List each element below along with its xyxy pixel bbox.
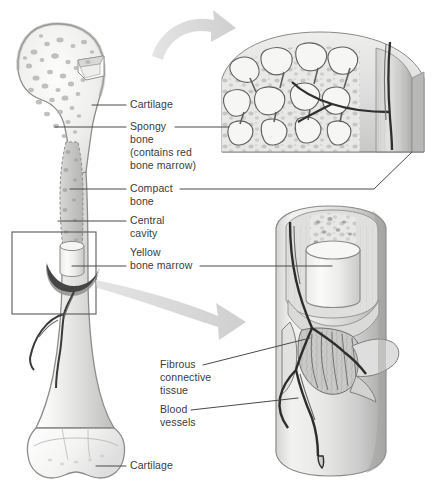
magnify-arrow-bottom	[96, 280, 246, 340]
label-fibrous-tissue-line3: tissue	[160, 384, 188, 397]
label-yellow-marrow-line2: bone marrow	[130, 259, 192, 272]
magnify-arrow-top	[152, 10, 236, 60]
inset-bone-shaft	[276, 206, 399, 476]
label-central-cavity-line1: Central	[130, 214, 165, 227]
illustration-layer	[0, 0, 438, 491]
whole-bone-illustration	[18, 24, 125, 478]
label-fibrous-tissue-line2: connective	[160, 371, 211, 384]
leader-compact-right	[180, 152, 412, 189]
label-cartilage-bottom: Cartilage	[130, 459, 173, 472]
label-yellow-marrow-line1: Yellow	[130, 246, 161, 259]
inset-marrow-cylinder	[306, 241, 360, 308]
bone-anatomy-figure: Cartilage Spongy bone (contains red bone…	[0, 0, 438, 491]
label-fibrous-tissue-line1: Fibrous	[160, 358, 196, 371]
label-compact-bone-line1: Compact	[130, 182, 173, 195]
label-spongy-bone-line3: (contains red	[130, 146, 192, 159]
label-spongy-bone-line2: bone	[130, 133, 154, 146]
label-compact-bone-line2: bone	[130, 195, 154, 208]
label-spongy-bone-line1: Spongy	[130, 120, 166, 133]
label-spongy-bone-line4: bone marrow)	[130, 159, 196, 172]
yellow-marrow-plug	[60, 241, 84, 276]
label-cartilage-top: Cartilage	[130, 98, 173, 111]
label-blood-vessels-line1: Blood	[160, 403, 187, 416]
label-central-cavity-line2: cavity	[130, 227, 157, 240]
label-blood-vessels-line2: vessels	[160, 416, 196, 429]
inset-spongy-bone	[222, 32, 424, 152]
